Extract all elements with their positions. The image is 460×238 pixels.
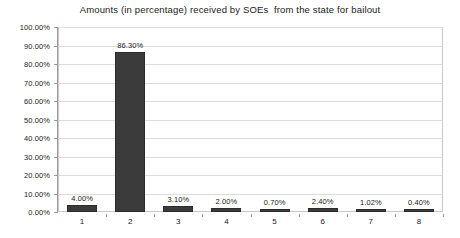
y-tick-label: 40.00% bbox=[24, 134, 50, 143]
x-tick-label: 5 bbox=[272, 217, 277, 226]
x-tick-mark bbox=[347, 214, 348, 217]
y-tick-label: 70.00% bbox=[24, 78, 50, 87]
x-axis: 12345678 bbox=[58, 214, 443, 232]
bar-slot: 0.40% bbox=[395, 27, 443, 212]
bar[interactable] bbox=[67, 205, 97, 212]
x-tick-label: 6 bbox=[320, 217, 325, 226]
x-tick-mark bbox=[106, 214, 107, 217]
x-tick-mark bbox=[395, 214, 396, 217]
x-tick-label: 3 bbox=[176, 217, 181, 226]
bar-value-label: 0.70% bbox=[264, 198, 286, 207]
y-tick-label: 80.00% bbox=[24, 60, 50, 69]
y-tick-label: 60.00% bbox=[24, 97, 50, 106]
x-tick-label: 1 bbox=[80, 217, 85, 226]
bar[interactable] bbox=[260, 209, 290, 212]
bar-value-label: 2.40% bbox=[312, 197, 334, 206]
bar-value-label: 2.00% bbox=[216, 197, 238, 206]
bar-slot: 3.10% bbox=[154, 27, 202, 212]
bars-layer: 4.00%86.30%3.10%2.00%0.70%2.40%1.02%0.40… bbox=[58, 27, 443, 212]
bar[interactable] bbox=[163, 206, 193, 212]
bar[interactable] bbox=[115, 52, 145, 212]
bar-chart: Amounts (in percentage) received by SOEs… bbox=[0, 0, 460, 238]
y-tick-label: 0.00% bbox=[28, 208, 50, 217]
bar-value-label: 3.10% bbox=[167, 195, 189, 204]
bar-slot: 0.70% bbox=[251, 27, 299, 212]
bar-slot: 86.30% bbox=[106, 27, 154, 212]
bar-value-label: 1.02% bbox=[360, 198, 382, 207]
bar-slot: 4.00% bbox=[58, 27, 106, 212]
y-tick-label: 30.00% bbox=[24, 152, 50, 161]
bar[interactable] bbox=[211, 208, 241, 212]
y-tick-label: 90.00% bbox=[24, 41, 50, 50]
x-tick-mark bbox=[251, 214, 252, 217]
y-tick-label: 100.00% bbox=[20, 23, 50, 32]
bar[interactable] bbox=[404, 209, 434, 212]
bar-slot: 2.00% bbox=[202, 27, 250, 212]
bar-slot: 1.02% bbox=[347, 27, 395, 212]
bar-value-label: 86.30% bbox=[117, 41, 143, 50]
bar[interactable] bbox=[308, 208, 338, 212]
x-tick-label: 7 bbox=[369, 217, 374, 226]
x-tick-label: 8 bbox=[417, 217, 422, 226]
y-axis: 0.00%10.00%20.00%30.00%40.00%50.00%60.00… bbox=[0, 27, 54, 212]
bar-value-label: 4.00% bbox=[71, 194, 93, 203]
bar[interactable] bbox=[356, 209, 386, 212]
y-tick-label: 20.00% bbox=[24, 171, 50, 180]
x-tick-mark bbox=[154, 214, 155, 217]
bar-slot: 2.40% bbox=[299, 27, 347, 212]
chart-title: Amounts (in percentage) received by SOEs… bbox=[0, 4, 460, 15]
x-tick-mark bbox=[202, 214, 203, 217]
bar-value-label: 0.40% bbox=[408, 198, 430, 207]
x-tick-mark bbox=[443, 214, 444, 217]
y-tick-label: 50.00% bbox=[24, 115, 50, 124]
x-tick-mark bbox=[299, 214, 300, 217]
y-tick-label: 10.00% bbox=[24, 189, 50, 198]
x-tick-label: 4 bbox=[224, 217, 229, 226]
x-tick-label: 2 bbox=[128, 217, 133, 226]
